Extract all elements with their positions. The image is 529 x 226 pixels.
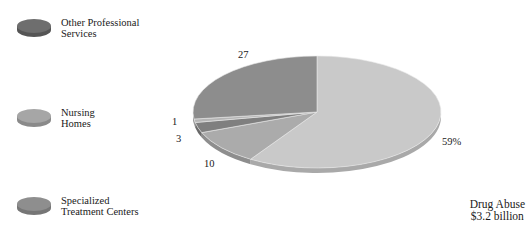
pie-slice [193, 56, 317, 119]
slice-label-3: 3 [176, 133, 181, 144]
chart-total: $3.2 billion [470, 210, 525, 222]
pie-chart [0, 0, 529, 226]
slice-label-1: 1 [172, 116, 177, 127]
slice-label-10: 10 [204, 158, 215, 169]
chart-caption: Drug Abuse $3.2 billion [470, 198, 525, 222]
chart-title: Drug Abuse [470, 198, 525, 210]
slice-label-27: 27 [238, 49, 249, 60]
slice-label-59: 59% [442, 136, 461, 147]
